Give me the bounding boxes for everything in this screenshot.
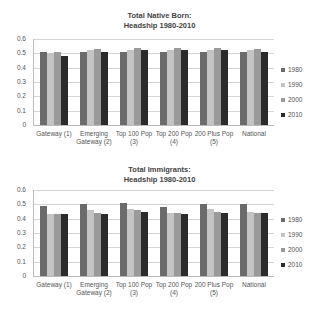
bar-group [40,190,70,276]
x-axis-label-line: (3) [112,289,156,297]
legend-swatch [281,248,285,252]
y-axis-tick-label: 0.1 [0,258,26,265]
bar-1980[interactable] [120,203,127,276]
bar-group [40,39,70,125]
bar-group [80,190,110,276]
legend-label: 1990 [288,81,302,88]
bar-group [240,190,270,276]
bar-1990[interactable] [127,209,134,276]
legend-item-2010: 2010 [281,111,302,118]
bar-1990[interactable] [247,50,254,125]
bar-2010[interactable] [261,213,268,276]
bar-1980[interactable] [240,52,247,125]
x-axis-label-line: Gateway (1) [32,130,76,138]
y-axis-tick-label: 0.4 [0,64,26,71]
y-axis-tick-label: 0.5 [0,200,26,207]
bar-2000[interactable] [174,48,181,125]
bar-2000[interactable] [94,49,101,125]
bar-2010[interactable] [61,56,68,125]
bar-group [80,39,110,125]
bar-group [200,190,230,276]
gridline [34,53,274,54]
bar-2000[interactable] [214,212,221,277]
x-axis-label-line: (5) [192,138,236,146]
legend-item-1990: 1990 [281,231,302,238]
x-axis-label-line: (3) [112,138,156,146]
bar-1980[interactable] [120,52,127,125]
bar-2000[interactable] [214,48,221,125]
bar-1980[interactable] [240,204,247,276]
bar-2010[interactable] [141,50,148,125]
bar-2010[interactable] [181,214,188,276]
bar-1990[interactable] [167,213,174,276]
bar-1980[interactable] [160,52,167,125]
x-axis-category-label: EmergingGateway (2) [72,130,116,146]
legend-label: 1980 [288,216,302,223]
legend-label: 2000 [288,246,302,253]
bar-2000[interactable] [94,213,101,276]
legend-label: 2000 [288,96,302,103]
bar-2010[interactable] [261,52,268,125]
gridline [34,233,274,234]
plot-area [33,190,274,277]
bar-1990[interactable] [247,212,254,277]
x-axis-category-label: National [232,130,276,138]
bar-2000[interactable] [254,213,261,276]
legend-label: 1980 [288,66,302,73]
bar-2010[interactable] [101,52,108,125]
bar-1990[interactable] [127,50,134,125]
bar-2010[interactable] [181,50,188,125]
bar-2000[interactable] [134,210,141,276]
bar-1980[interactable] [200,204,207,276]
gridline [34,190,274,191]
bar-1990[interactable] [207,50,214,125]
bar-1990[interactable] [47,53,54,125]
x-axis-category-label: EmergingGateway (2) [72,281,116,297]
x-axis-category-label: Gateway (1) [32,130,76,138]
x-axis-category-label: 200 Plus Pop(5) [192,281,236,297]
x-axis-category-label: Top 200 Pop(4) [152,130,196,146]
chart-title-line: Total Immigrants: [0,165,319,175]
bar-2000[interactable] [134,48,141,125]
x-axis-label-line: Top 200 Pop [152,130,196,138]
bar-2010[interactable] [221,213,228,276]
bar-1980[interactable] [200,52,207,125]
x-axis-label-line: National [232,130,276,138]
gridline [34,111,274,112]
bar-2000[interactable] [174,213,181,276]
x-axis-label-line: Top 100 Pop [112,130,156,138]
x-axis-label-line: National [232,281,276,289]
gridline [34,68,274,69]
bar-2000[interactable] [54,214,61,276]
chart-title-line: Headship 1980-2010 [0,21,319,31]
bar-1980[interactable] [80,204,87,276]
bar-1980[interactable] [40,206,47,276]
bar-2010[interactable] [61,214,68,276]
bar-1980[interactable] [40,52,47,125]
bar-1990[interactable] [87,210,94,276]
bar-2000[interactable] [54,52,61,125]
bar-1980[interactable] [80,52,87,125]
legend-swatch [281,233,285,237]
bar-2000[interactable] [254,49,261,125]
x-axis-category-label: Gateway (1) [32,281,76,289]
bar-2010[interactable] [221,50,228,125]
legend-item-2010: 2010 [281,261,302,268]
bar-1990[interactable] [87,50,94,125]
legend-swatch [281,68,285,72]
bar-1990[interactable] [207,209,214,276]
x-axis-label-line: 200 Plus Pop [192,130,236,138]
legend-swatch [281,113,285,117]
bar-1990[interactable] [47,214,54,276]
legend-swatch [281,263,285,267]
legend-label: 1990 [288,231,302,238]
bar-2010[interactable] [141,212,148,277]
y-axis-tick-label: 0.6 [0,186,26,193]
legend-item-2000: 2000 [281,246,302,253]
bar-1980[interactable] [160,207,167,276]
bar-1990[interactable] [167,50,174,125]
bar-2010[interactable] [101,214,108,276]
y-axis-tick-label: 0 [0,272,26,279]
y-axis-tick-label: 0 [0,121,26,128]
legend-item-1990: 1990 [281,81,302,88]
